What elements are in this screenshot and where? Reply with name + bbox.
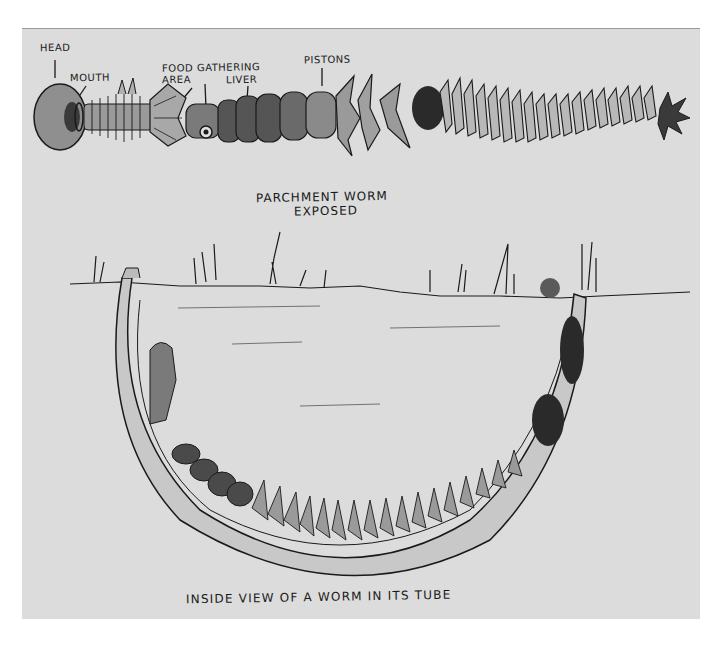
exposed-worm xyxy=(34,74,690,156)
label-head: HEAD xyxy=(40,42,71,54)
seabed xyxy=(70,232,690,298)
worm-illustration xyxy=(0,0,728,646)
label-food-gathering: FOOD GATHERING xyxy=(162,61,260,74)
title-line-2: EXPOSED xyxy=(294,203,358,218)
label-mouth: MOUTH xyxy=(70,72,110,84)
water-strokes xyxy=(178,306,500,406)
label-area: AREA xyxy=(162,74,191,86)
label-liver: LIVER xyxy=(226,74,257,86)
title-line-1: PARCHMENT WORM xyxy=(256,189,388,205)
label-pistons: PISTONS xyxy=(304,54,351,66)
